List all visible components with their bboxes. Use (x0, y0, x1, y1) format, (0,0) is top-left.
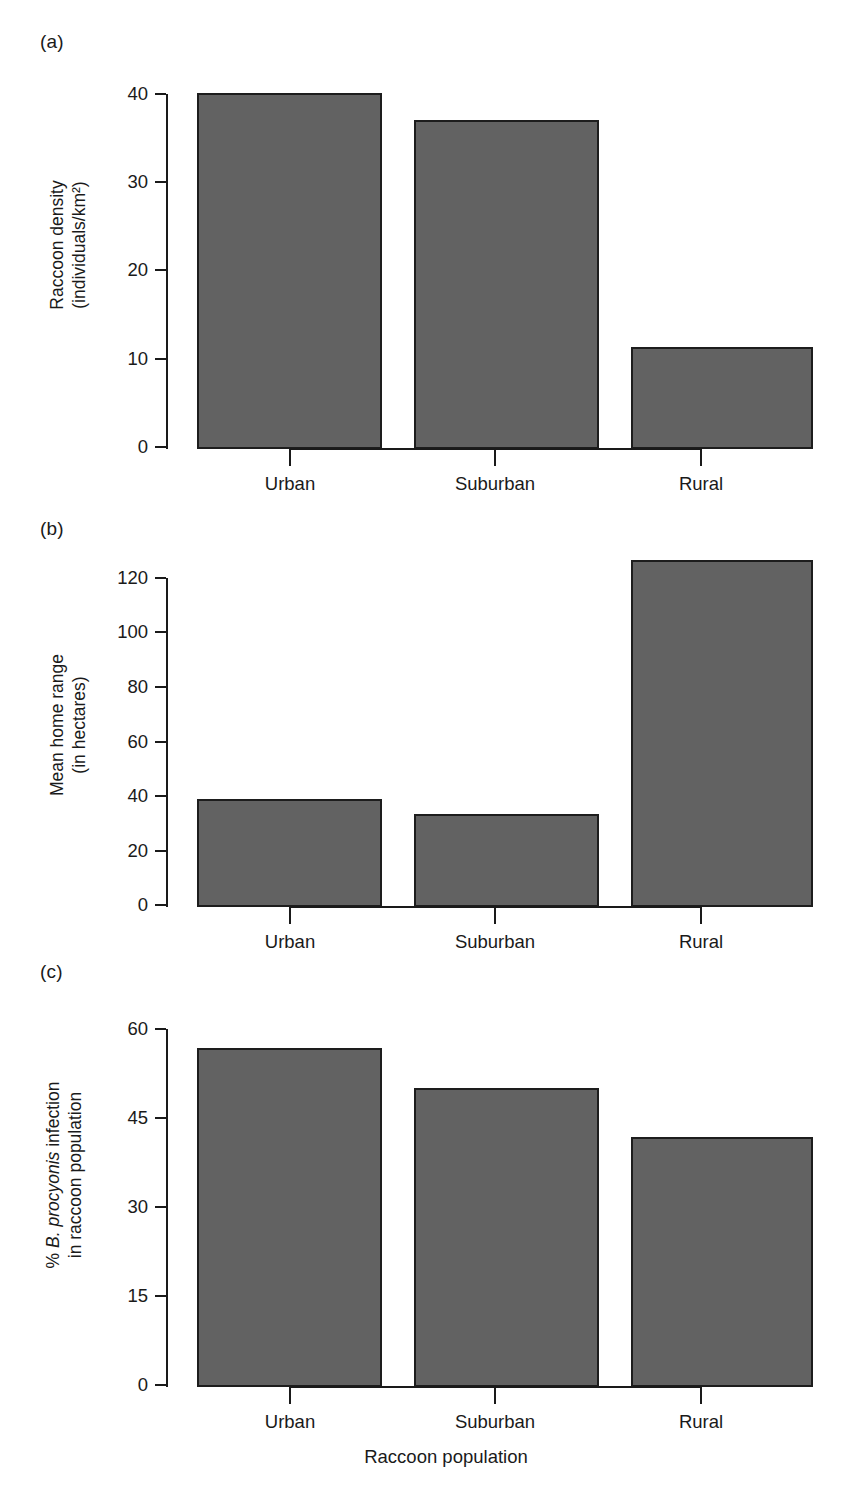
panel-c-y-axis-title-line2: in raccoon population (64, 965, 86, 1385)
panel-b-y-ticklabel-20: 20 (76, 842, 148, 861)
panel-c-bar-rural (631, 1137, 813, 1387)
panel-b-y-tick-20 (155, 850, 166, 852)
panel-a-y-ticklabel-0: 0 (86, 438, 148, 457)
panel-b-bar-urban (197, 799, 382, 907)
panel-b-y-ticklabel-40: 40 (76, 787, 148, 806)
panel-a-y-ticklabel-10: 10 (86, 350, 148, 369)
panel-c-y-tick-30 (155, 1206, 166, 1208)
panel-c-x-label-suburban: Suburban (435, 1413, 555, 1432)
panel-a-bar-suburban (414, 120, 599, 449)
panel-a-bar-rural (631, 347, 813, 449)
panel-b-x-label-suburban: Suburban (435, 933, 555, 952)
panel-a-y-axis-title: Raccoon density (individuals/km²) (46, 80, 91, 410)
panel-c-y-tick-0 (155, 1384, 166, 1386)
panel-c-y-ticklabel-0: 0 (86, 1376, 148, 1395)
panel-b-x-tick-rural (700, 907, 702, 924)
panel-b-y-ticklabel-60: 60 (76, 733, 148, 752)
panel-b-x-tick-suburban (494, 907, 496, 924)
panel-a-y-axis-line (166, 94, 168, 449)
panel-c-y-ticklabel-45: 45 (86, 1109, 148, 1128)
panel-c-bar-urban (197, 1048, 382, 1387)
panel-c-y-ticklabel-15: 15 (86, 1287, 148, 1306)
panel-c-y-tick-45 (155, 1117, 166, 1119)
panel-c-x-tick-suburban (494, 1387, 496, 1404)
panel-a: (a) Raccoon density (individuals/km²) 40… (0, 0, 852, 510)
panel-a-x-axis-line (290, 448, 702, 450)
panel-a-x-tick-rural (700, 449, 702, 466)
panel-c: (c) % B. procyonis infection in raccoon … (0, 965, 852, 1509)
panel-b: (b) Mean home range (in hectares) 120 10… (0, 510, 852, 965)
panel-c-bar-suburban (414, 1088, 599, 1387)
panel-b-x-label-urban: Urban (230, 933, 350, 952)
panel-a-y-tick-20 (155, 269, 166, 271)
panel-b-x-axis-line (290, 906, 702, 908)
panel-b-y-tick-80 (155, 686, 166, 688)
panel-a-y-tick-10 (155, 358, 166, 360)
panel-b-y-axis-line (166, 578, 168, 907)
panel-b-label: (b) (40, 519, 64, 538)
panel-b-y-ticklabel-80: 80 (76, 678, 148, 697)
x-axis-title: Raccoon population (336, 1448, 556, 1467)
panel-a-x-label-rural: Rural (641, 475, 761, 494)
panel-b-y-tick-0 (155, 904, 166, 906)
panel-b-y-axis-title: Mean home range (in hectares) (46, 560, 91, 890)
panel-b-y-axis-title-line1: Mean home range (46, 560, 68, 890)
panel-a-y-ticklabel-30: 30 (86, 173, 148, 192)
panel-a-x-label-suburban: Suburban (435, 475, 555, 494)
figure-raccoon-urbanization: (a) Raccoon density (individuals/km²) 40… (0, 0, 852, 1509)
panel-b-y-tick-60 (155, 741, 166, 743)
panel-b-x-label-rural: Rural (641, 933, 761, 952)
panel-b-y-ticklabel-100: 100 (76, 623, 148, 642)
panel-c-y-tick-15 (155, 1295, 166, 1297)
panel-b-y-ticklabel-120: 120 (76, 569, 148, 588)
panel-c-y-axis-line (166, 1029, 168, 1387)
panel-c-x-label-rural: Rural (641, 1413, 761, 1432)
panel-b-bar-suburban (414, 814, 599, 907)
panel-c-y-axis-title-species: B. procyonis (43, 1152, 63, 1248)
panel-c-x-tick-urban (289, 1387, 291, 1404)
panel-c-y-ticklabel-30: 30 (86, 1198, 148, 1217)
panel-b-bar-rural (631, 560, 813, 907)
panel-a-y-ticklabel-40: 40 (86, 85, 148, 104)
panel-a-x-label-urban: Urban (230, 475, 350, 494)
panel-a-x-tick-urban (289, 449, 291, 466)
panel-c-x-label-urban: Urban (230, 1413, 350, 1432)
panel-a-x-tick-suburban (494, 449, 496, 466)
panel-a-y-ticklabel-20: 20 (86, 261, 148, 280)
panel-c-y-axis-title: % B. procyonis infection in raccoon popu… (42, 965, 87, 1385)
panel-b-y-tick-40 (155, 795, 166, 797)
panel-a-y-tick-30 (155, 181, 166, 183)
panel-b-y-axis-title-line2: (in hectares) (68, 560, 90, 890)
panel-b-y-tick-100 (155, 631, 166, 633)
panel-a-y-tick-40 (155, 93, 166, 95)
panel-c-y-ticklabel-60: 60 (86, 1020, 148, 1039)
panel-b-x-tick-urban (289, 907, 291, 924)
panel-b-y-ticklabel-0: 0 (76, 896, 148, 915)
panel-a-bar-urban (197, 93, 382, 449)
panel-a-y-axis-title-line1: Raccoon density (46, 80, 68, 410)
panel-c-y-axis-title-line1: % B. procyonis infection (42, 965, 64, 1385)
panel-c-x-tick-rural (700, 1387, 702, 1404)
panel-c-x-axis-line (290, 1386, 702, 1388)
panel-a-label: (a) (40, 32, 64, 51)
panel-c-y-tick-60 (155, 1028, 166, 1030)
panel-b-y-tick-120 (155, 577, 166, 579)
panel-a-y-tick-0 (155, 446, 166, 448)
